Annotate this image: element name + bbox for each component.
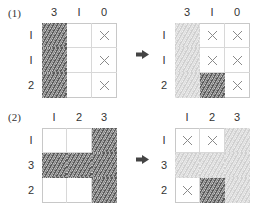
- grid-cell: [92, 48, 117, 73]
- problem-label: (2): [8, 111, 21, 123]
- cross-icon: [225, 73, 250, 98]
- grid-cell: [175, 178, 200, 203]
- column-clue: I: [205, 6, 219, 18]
- column-clue: I: [47, 111, 61, 123]
- grid-cell: [92, 153, 117, 178]
- grid-cell: [42, 128, 67, 153]
- row-clue: 2: [24, 79, 38, 91]
- cross-icon: [200, 48, 225, 73]
- column-clue: 3: [47, 6, 61, 18]
- row-clue: I: [24, 54, 38, 66]
- row-clue: I: [24, 29, 38, 41]
- column-clue: 3: [180, 6, 194, 18]
- grid-cell: [175, 23, 200, 48]
- grid-cell: [200, 128, 225, 153]
- cross-icon: [225, 48, 250, 73]
- grid-cell: [92, 128, 117, 153]
- grid-cell: [175, 128, 200, 153]
- after-grid: [175, 128, 250, 203]
- grid-cell: [67, 73, 92, 98]
- column-clue: 0: [97, 6, 111, 18]
- grid-cell: [225, 73, 250, 98]
- row-clue: 3: [157, 159, 171, 171]
- column-clue: 2: [72, 111, 86, 123]
- grid-cell: [225, 178, 250, 203]
- grid-cell: [42, 23, 67, 48]
- row-clue: I: [157, 134, 171, 146]
- after-grid: [175, 23, 250, 98]
- row-clue: 2: [157, 184, 171, 196]
- grid-cell: [92, 73, 117, 98]
- column-clue: I: [180, 111, 194, 123]
- grid-cell: [200, 153, 225, 178]
- row-clue: 3: [24, 159, 38, 171]
- row-clue: I: [157, 54, 171, 66]
- row-clue: I: [157, 29, 171, 41]
- column-clue: 0: [230, 6, 244, 18]
- grid-cell: [175, 48, 200, 73]
- grid-cell: [42, 73, 67, 98]
- cross-icon: [225, 23, 250, 48]
- grid-cell: [175, 153, 200, 178]
- grid-cell: [92, 23, 117, 48]
- cross-icon: [200, 23, 225, 48]
- grid-cell: [67, 153, 92, 178]
- grid-cell: [42, 48, 67, 73]
- grid-cell: [200, 73, 225, 98]
- grid-cell: [200, 23, 225, 48]
- grid-cell: [175, 73, 200, 98]
- cross-icon: [200, 128, 225, 153]
- grid-cell: [225, 153, 250, 178]
- cross-icon: [92, 23, 117, 48]
- before-grid: [42, 23, 117, 98]
- column-clue: 3: [97, 111, 111, 123]
- grid-cell: [42, 153, 67, 178]
- row-clue: I: [24, 134, 38, 146]
- row-clue: 2: [157, 79, 171, 91]
- problem-label: (1): [8, 7, 21, 19]
- cross-icon: [92, 48, 117, 73]
- right-arrow-icon: [136, 45, 149, 63]
- cross-icon: [175, 178, 200, 203]
- right-arrow-icon: [136, 150, 149, 168]
- grid-cell: [67, 48, 92, 73]
- grid-cell: [200, 48, 225, 73]
- grid-cell: [92, 178, 117, 203]
- column-clue: 2: [205, 111, 219, 123]
- grid-cell: [200, 178, 225, 203]
- cross-icon: [92, 73, 117, 98]
- grid-cell: [225, 23, 250, 48]
- grid-cell: [67, 178, 92, 203]
- grid-cell: [67, 23, 92, 48]
- column-clue: I: [72, 6, 86, 18]
- grid-cell: [225, 48, 250, 73]
- row-clue: 2: [24, 184, 38, 196]
- grid-cell: [42, 178, 67, 203]
- grid-cell: [67, 128, 92, 153]
- grid-cell: [225, 128, 250, 153]
- before-grid: [42, 128, 117, 203]
- column-clue: 3: [230, 111, 244, 123]
- cross-icon: [175, 128, 200, 153]
